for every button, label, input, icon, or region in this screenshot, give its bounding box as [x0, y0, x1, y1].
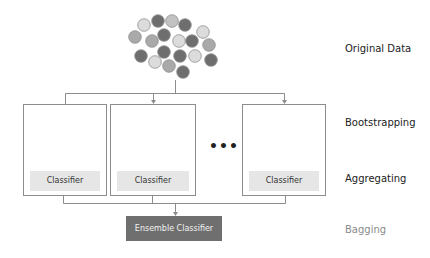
data-point — [146, 35, 159, 48]
original-data-cloud — [129, 15, 218, 79]
label-original-data: Original Data — [345, 43, 411, 54]
data-point — [129, 31, 142, 44]
classifier-3: Classifier — [249, 171, 319, 191]
data-point — [152, 15, 165, 28]
label-aggregating: Aggregating — [345, 173, 406, 184]
classifier-1: Classifier — [30, 171, 100, 191]
label-bagging: Bagging — [345, 224, 386, 235]
data-point — [186, 35, 199, 48]
bootstrap-sample-1: Classifier — [23, 104, 107, 196]
data-point — [163, 60, 176, 73]
label-bootstrapping: Bootstrapping — [345, 117, 416, 128]
data-point — [177, 66, 190, 79]
data-point — [173, 35, 186, 48]
data-point — [189, 50, 202, 63]
bootstrap-sample-3: Classifier — [242, 104, 326, 196]
data-point — [179, 19, 192, 32]
data-point — [158, 29, 171, 42]
data-point — [197, 26, 210, 39]
data-point — [205, 54, 218, 67]
bootstrap-sample-2: Classifier — [110, 104, 196, 196]
more-samples-ellipsis: ••• — [209, 138, 239, 154]
data-point — [174, 50, 187, 63]
data-point — [149, 56, 162, 69]
data-point — [158, 46, 171, 59]
data-point — [138, 19, 151, 32]
data-point — [166, 15, 179, 28]
classifier-2: Classifier — [117, 171, 189, 191]
ensemble-classifier: Ensemble Classifier — [126, 216, 222, 241]
data-point — [203, 39, 216, 52]
data-point — [135, 50, 148, 63]
